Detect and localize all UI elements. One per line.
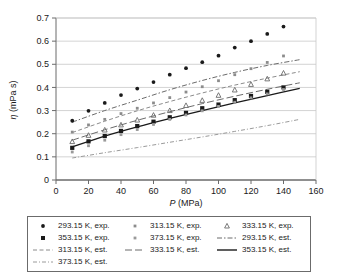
- data-point: [71, 131, 74, 134]
- legend-label: 353.15 K, exp.: [58, 233, 110, 243]
- data-point: [281, 70, 286, 75]
- data-point: [103, 139, 106, 142]
- y-tick-label: 0.1: [36, 152, 49, 162]
- data-point: [217, 54, 221, 58]
- x-tick-label: 60: [148, 186, 158, 196]
- data-point: [200, 98, 205, 103]
- data-point: [71, 151, 74, 154]
- data-point: [168, 73, 172, 77]
- legend-label: 333.15 K, est.: [150, 245, 199, 255]
- legend-label: 373.15 K, est.: [58, 257, 107, 267]
- legend-grid: 293.15 K, exp.313.15 K, exp.333.15 K, ex…: [32, 221, 308, 267]
- data-point: [119, 129, 123, 133]
- data-point: [265, 32, 269, 36]
- data-point: [135, 87, 139, 91]
- legend-key-triangle-icon: [216, 221, 238, 231]
- data-series: [70, 85, 285, 150]
- data-point: [87, 144, 90, 147]
- legend-entry: 353.15 K, est.: [216, 245, 310, 255]
- estimated-curve: [72, 119, 300, 158]
- legend-key-dash-dot-icon: [216, 233, 238, 243]
- y-tick-label: 0.4: [36, 83, 49, 93]
- data-point: [201, 85, 204, 88]
- axis-frame: [52, 18, 316, 184]
- legend-label: 293.15 K, exp.: [58, 221, 110, 231]
- data-point: [136, 128, 139, 131]
- data-point: [249, 82, 254, 87]
- axis-titles: P (MPa) η (mPa s): [8, 80, 203, 208]
- data-point: [249, 39, 253, 43]
- data-point: [217, 79, 220, 82]
- legend-label: 373.15 K, exp.: [150, 233, 202, 243]
- x-tick-label: 120: [243, 186, 258, 196]
- data-point: [233, 73, 236, 76]
- legend-entry: 313.15 K, exp.: [124, 221, 216, 231]
- tick-labels: 00.10.20.30.40.50.60.7020406080100120140…: [36, 13, 323, 196]
- legend-entry: 373.15 K, est.: [32, 257, 124, 267]
- data-point: [282, 55, 285, 58]
- data-point: [185, 91, 188, 94]
- data-point: [282, 88, 285, 91]
- legend-entry: 353.15 K, exp.: [32, 233, 124, 243]
- legend-key-dashed-icon: [32, 245, 54, 255]
- y-axis-title: η (mPa s): [8, 80, 18, 119]
- legend-key-long-dash-icon: [124, 245, 146, 255]
- data-series: [70, 25, 285, 123]
- legend-entry: 333.15 K, exp.: [216, 221, 310, 231]
- data-point: [103, 118, 106, 121]
- legend-key-small-dot-icon: [124, 221, 146, 231]
- y-tick-label: 0.5: [36, 59, 49, 69]
- data-point: [250, 67, 253, 70]
- legend-label: 313.15 K, est.: [58, 245, 107, 255]
- estimated-curves: [72, 60, 300, 158]
- data-point: [152, 102, 155, 105]
- plot-area: 00.10.20.30.40.50.60.7020406080100120140…: [0, 0, 338, 212]
- x-tick-label: 20: [83, 186, 93, 196]
- y-tick-label: 0: [44, 175, 49, 185]
- data-point: [233, 101, 236, 104]
- legend-key-filled-square-icon: [32, 233, 54, 243]
- legend-entry: 313.15 K, est.: [32, 245, 124, 255]
- data-point: [217, 105, 220, 108]
- x-tick-label: 140: [276, 186, 291, 196]
- data-point: [135, 124, 139, 128]
- chart-legend: 293.15 K, exp.313.15 K, exp.333.15 K, ex…: [27, 216, 311, 272]
- x-tick-label: 160: [308, 186, 323, 196]
- y-tick-label: 0.2: [36, 129, 49, 139]
- data-point: [120, 133, 123, 136]
- data-point: [151, 113, 156, 118]
- legend-label: 353.15 K, est.: [242, 245, 291, 255]
- data-point: [266, 61, 269, 64]
- data-point: [200, 60, 204, 64]
- data-point: [152, 80, 156, 84]
- data-point: [87, 109, 91, 113]
- data-point: [136, 107, 139, 110]
- data-point: [70, 119, 74, 123]
- y-tick-label: 0.6: [36, 36, 49, 46]
- data-point: [119, 93, 123, 97]
- data-point: [120, 112, 123, 115]
- grid-lines: [56, 18, 316, 180]
- x-tick-label: 40: [116, 186, 126, 196]
- x-tick-label: 100: [211, 186, 226, 196]
- data-point: [168, 96, 171, 99]
- data-point: [135, 117, 140, 122]
- data-point: [184, 103, 189, 108]
- legend-key-solid-icon: [216, 245, 238, 255]
- data-point: [216, 93, 221, 98]
- data-point: [185, 114, 188, 117]
- legend-label: 293.15 K, est.: [242, 233, 291, 243]
- legend-entry: 373.15 K, exp.: [124, 233, 216, 243]
- data-point: [266, 93, 269, 96]
- legend-entry: 293.15 K, exp.: [32, 221, 124, 231]
- legend-entry: 293.15 K, est.: [216, 233, 310, 243]
- y-tick-label: 0.3: [36, 106, 49, 116]
- x-tick-label: 80: [181, 186, 191, 196]
- data-point: [168, 118, 171, 121]
- legend-key-dash-dot-fine-icon: [32, 257, 54, 267]
- data-point: [152, 123, 155, 126]
- legend-key-filled-circle-icon: [32, 221, 54, 231]
- data-point: [87, 124, 90, 127]
- data-series: [70, 70, 286, 143]
- data-point: [250, 96, 253, 99]
